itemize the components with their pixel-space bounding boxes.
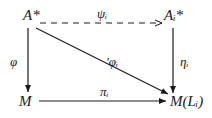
node-m: M: [19, 94, 32, 109]
label-phi: φ: [10, 55, 17, 68]
node-a-i-star: Aᵢ*: [164, 8, 183, 23]
node-m-l-i: M(Lᵢ): [170, 94, 203, 109]
label-phi-i: 'φᵢ: [106, 55, 118, 68]
label-pi: πᵢ: [100, 85, 109, 98]
label-eta: ηᵢ: [180, 55, 189, 68]
label-psi: ψᵢ: [97, 7, 107, 20]
node-a-star: A*: [23, 8, 40, 23]
